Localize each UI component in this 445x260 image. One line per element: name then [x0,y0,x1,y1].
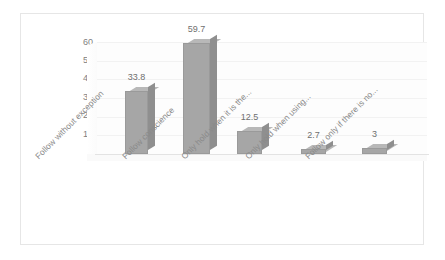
gridline [97,61,427,62]
gridline [97,42,427,43]
bar-value-label: 59.7 [188,25,206,34]
bar-value-label: 33.8 [128,73,146,82]
chart-frame: 60 50 40 30 20 10 0 33.8 [20,13,424,245]
plot-floor [87,154,427,161]
bar-front-face [362,148,387,154]
bar-side-face [148,83,155,150]
bar-column[interactable]: 3 [362,148,387,154]
bar-value-label: 12.5 [241,113,259,122]
bar-value-label: 3 [372,130,377,139]
gridline [97,79,427,80]
chart-container: 60 50 40 30 20 10 0 33.8 [0,0,445,260]
x-axis-baseline [95,154,429,155]
